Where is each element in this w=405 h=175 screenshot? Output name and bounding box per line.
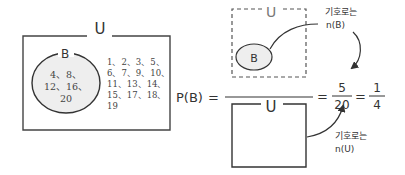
fraction-5-20: 5 20 <box>332 81 352 112</box>
numerator-note-line1: 기호로는 <box>325 7 357 17</box>
numerator-venn: U B <box>232 4 306 77</box>
left-venn-diagram: U B 4、8、 12、16、 20 1、2、3、5、 6、7、9、10、 11… <box>23 20 170 130</box>
probability-diagram: U B 4、8、 12、16、 20 1、2、3、5、 6、7、9、10、 11… <box>0 0 405 175</box>
probability-formula: P(B) = U B U = 5 20 = 1 4 <box>176 4 385 167</box>
fraction-1-4: 1 4 <box>369 81 385 112</box>
formula-equals-2: = <box>317 89 328 104</box>
fraction2-denominator: 4 <box>373 98 381 112</box>
set-b-elements-line2: 12、16、 <box>44 81 88 92</box>
numerator-connector-line <box>270 24 318 49</box>
fraction2-numerator: 1 <box>373 81 381 95</box>
numerator-note-line2: n(B) <box>326 20 345 30</box>
formula-equals-3: = <box>355 89 366 104</box>
outside-elements-line5: 19 <box>107 101 118 111</box>
formula-equals-1: = <box>208 90 219 105</box>
set-b-elements-line1: 4、8、 <box>50 69 82 80</box>
denominator-venn: U <box>232 98 306 167</box>
set-b-elements-line3: 20 <box>60 93 72 104</box>
numerator-set-b-label: B <box>250 52 258 65</box>
set-b-label: B <box>61 47 69 61</box>
universe-label: U <box>95 20 106 38</box>
outside-elements-line2: 6、7、9、10、 <box>107 68 170 78</box>
annotations: 기호로는 n(B) 기호로는 n(U) <box>270 7 367 154</box>
numerator-universe-label: U <box>266 4 276 20</box>
fraction1-numerator: 5 <box>338 81 346 95</box>
outside-elements-line3: 11、13、14、 <box>107 79 166 89</box>
numerator-arrow <box>352 32 360 68</box>
outside-elements-line1: 1、2、3、5、 <box>107 57 165 67</box>
denominator-note-line1: 기호로는 <box>335 131 367 141</box>
denominator-note-line2: n(U) <box>335 144 354 154</box>
denominator-universe-label: U <box>266 98 277 116</box>
formula-lhs: P(B) <box>176 90 203 105</box>
outside-elements-line4: 15、17、18、 <box>107 90 166 100</box>
